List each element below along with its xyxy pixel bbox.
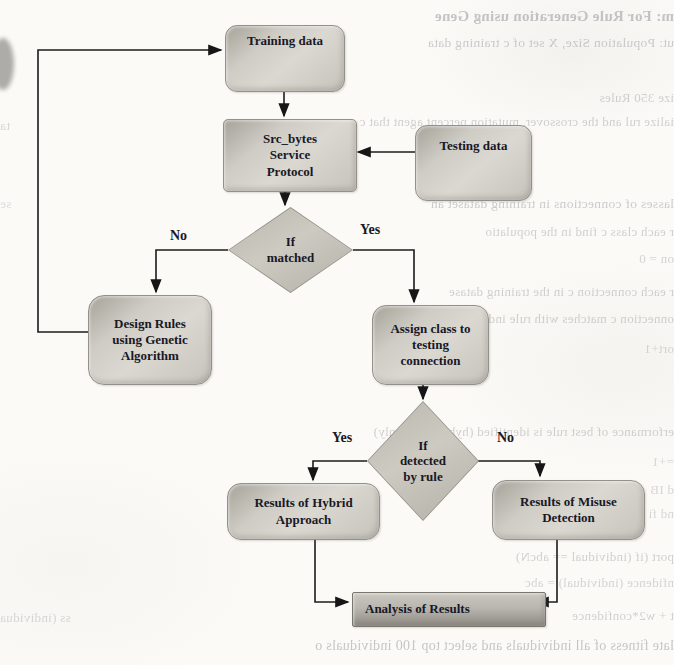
node-results-misuse: Results of Misuse Detection xyxy=(492,480,645,540)
node-design-rules: Design Rules using Genetic Algorithm xyxy=(88,295,212,385)
node-assign-class: Assign class to testing connection xyxy=(372,305,489,385)
decision-if-matched: If matched xyxy=(228,207,353,293)
node-training-data-label: Training data xyxy=(247,33,323,49)
node-analysis-of-results: Analysis of Results xyxy=(352,592,546,627)
node-testing-data: Testing data xyxy=(415,125,532,201)
label-detected-no: No xyxy=(497,430,514,446)
node-testing-data-label: Testing data xyxy=(440,138,508,154)
node-src-bytes-service-protocol: Src_bytes Service Protocol xyxy=(223,119,357,192)
label-matched-yes: Yes xyxy=(360,222,380,238)
node-analysis-label: Analysis of Results xyxy=(365,601,470,617)
decision-if-detected-by-rule: If detected by rule xyxy=(367,401,479,521)
node-results-hybrid: Results of Hybrid Approach xyxy=(227,483,380,540)
scanned-figure-page: m: For Rule Generation using Geneut: Pop… xyxy=(0,0,674,665)
label-detected-yes: Yes xyxy=(332,430,352,446)
flowchart: Training data Src_bytes Service Protocol… xyxy=(0,0,674,665)
node-training-data: Training data xyxy=(225,25,345,92)
label-matched-no: No xyxy=(170,228,187,244)
